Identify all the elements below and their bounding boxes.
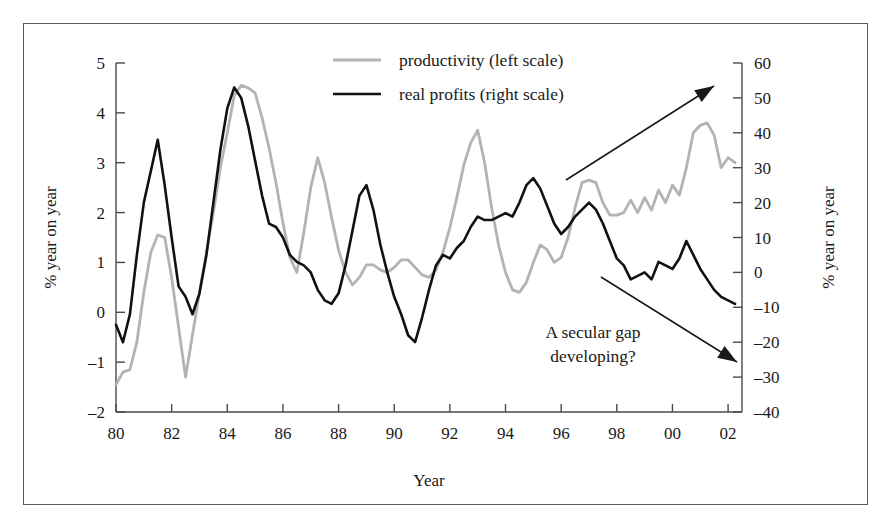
y-axis-left-tick-label: 2	[97, 204, 106, 223]
y-axis-right-tick-label: 10	[754, 229, 771, 248]
y-axis-right-tick-label: –10	[753, 298, 780, 317]
productivity-trend-arrow-head	[694, 86, 714, 102]
y-axis-right-tick-label: 0	[754, 263, 763, 282]
figure-root: 808284868890929496980002Year–2–1012345% …	[0, 0, 891, 523]
y-axis-right-tick-label: –30	[753, 368, 780, 387]
y-axis-right-tick-label: –40	[753, 403, 780, 422]
x-axis-tick-label: 92	[441, 424, 458, 443]
y-axis-left-tick-label: –1	[87, 353, 105, 372]
legend-label-real-profits: real profits (right scale)	[399, 84, 564, 104]
x-axis-tick-label: 02	[720, 424, 737, 443]
gap-annotation-line1: A secular gap	[545, 322, 640, 342]
x-axis-tick-label: 98	[608, 424, 625, 443]
y-axis-right-tick-label: 30	[754, 159, 771, 178]
productivity-trend-arrow-shaft	[566, 86, 714, 180]
x-axis-tick-label: 94	[497, 424, 515, 443]
y-axis-right-title: % year on year	[819, 186, 838, 289]
y-axis-right-tick-label: 20	[754, 194, 771, 213]
x-axis-tick-label: 00	[664, 424, 681, 443]
y-axis-left-title: % year on year	[41, 186, 60, 289]
y-axis-left-tick-label: 4	[97, 104, 106, 123]
y-axis-left-tick-label: 3	[97, 154, 106, 173]
gap-annotation-line2: developing?	[550, 346, 636, 366]
annotation-group: A secular gapdeveloping?	[545, 86, 737, 366]
x-axis-tick-label: 90	[386, 424, 403, 443]
profits-trend-arrow-head	[717, 346, 737, 362]
y-axis-left-tick-label: 5	[97, 54, 106, 73]
axes-group: 808284868890929496980002Year–2–1012345% …	[41, 54, 838, 490]
x-axis-title: Year	[413, 471, 445, 490]
legend-group: productivity (left scale)real profits (r…	[333, 50, 564, 104]
y-axis-right-tick-label: 40	[754, 124, 771, 143]
y-axis-right-tick-label: 60	[754, 54, 771, 73]
x-axis-tick-label: 82	[163, 424, 180, 443]
x-axis-tick-label: 96	[553, 424, 570, 443]
y-axis-right-tick-label: 50	[754, 89, 771, 108]
y-axis-left-tick-label: 1	[97, 253, 106, 272]
y-axis-left-tick-label: –2	[87, 403, 105, 422]
x-axis-tick-label: 80	[108, 424, 125, 443]
series-group	[116, 85, 735, 384]
x-axis-tick-label: 84	[219, 424, 237, 443]
y-axis-right-tick-label: –20	[753, 333, 780, 352]
chart-canvas: 808284868890929496980002Year–2–1012345% …	[0, 0, 891, 523]
legend-label-productivity: productivity (left scale)	[399, 50, 563, 70]
series-line-real-profits	[116, 87, 735, 342]
x-axis-tick-label: 86	[274, 424, 291, 443]
y-axis-left-tick-label: 0	[97, 303, 106, 322]
x-axis-tick-label: 88	[330, 424, 347, 443]
